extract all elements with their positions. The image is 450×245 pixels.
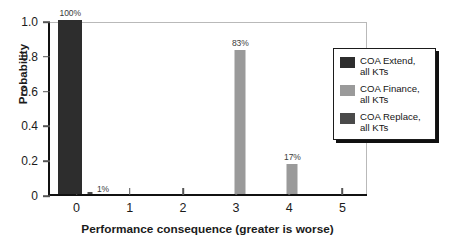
x-tick-label: 0 xyxy=(73,201,80,215)
y-tick-label: 0.6 xyxy=(21,85,38,99)
chart-legend: COA Extend,all KTsCOA Finance,all KTsCOA… xyxy=(333,48,436,140)
legend-swatch-icon xyxy=(340,85,355,96)
bar: 83% xyxy=(235,50,246,194)
gridline-top xyxy=(50,22,367,23)
y-tick-label: 0.2 xyxy=(21,154,38,168)
x-tick-label: 4 xyxy=(286,201,293,215)
legend-swatch-icon xyxy=(340,113,355,124)
legend-item-label: COA Replace,all KTs xyxy=(360,111,421,134)
x-axis-title: Performance consequence (greater is wors… xyxy=(48,222,367,236)
chart-canvas: Probability 00.20.40.60.81.0012345100%1%… xyxy=(0,0,450,245)
legend-item[interactable]: COA Replace,all KTs xyxy=(340,111,430,134)
y-tick-mark xyxy=(43,195,50,197)
y-tick-mark xyxy=(43,91,50,93)
y-tick-mark xyxy=(43,21,50,23)
x-tick-label: 5 xyxy=(339,201,346,215)
legend-item-label: COA Extend,all KTs xyxy=(360,55,415,78)
bar: 17% xyxy=(287,164,298,194)
y-tick-mark xyxy=(43,160,50,162)
bar-value-label: 100% xyxy=(60,8,81,18)
x-tick-mark xyxy=(129,188,131,195)
bar: 1% xyxy=(88,192,93,194)
bar-value-label: 17% xyxy=(284,152,301,162)
y-tick-label: 0.4 xyxy=(21,119,38,133)
legend-swatch-icon xyxy=(340,57,355,68)
y-tick-label: 0.8 xyxy=(21,50,38,64)
y-tick-mark xyxy=(43,56,50,58)
x-tick-label: 1 xyxy=(126,201,133,215)
y-tick-mark xyxy=(43,126,50,128)
x-tick-label: 3 xyxy=(233,201,240,215)
x-tick-label: 2 xyxy=(179,201,186,215)
y-tick-label: 1.0 xyxy=(21,15,38,29)
bar-value-label: 83% xyxy=(232,38,249,48)
legend-item[interactable]: COA Extend,all KTs xyxy=(340,55,430,78)
x-tick-mark xyxy=(182,188,184,195)
plot-area: 00.20.40.60.81.0012345100%1%83%17% xyxy=(48,22,367,196)
y-tick-label: 0 xyxy=(31,189,38,203)
x-tick-mark xyxy=(342,188,344,195)
legend-item-label: COA Finance,all KTs xyxy=(360,83,420,106)
legend-item[interactable]: COA Finance,all KTs xyxy=(340,83,430,106)
bar: 100% xyxy=(58,20,82,194)
plot-inner: 00.20.40.60.81.0012345100%1%83%17% xyxy=(50,22,367,194)
bar-value-label: 1% xyxy=(97,184,109,194)
